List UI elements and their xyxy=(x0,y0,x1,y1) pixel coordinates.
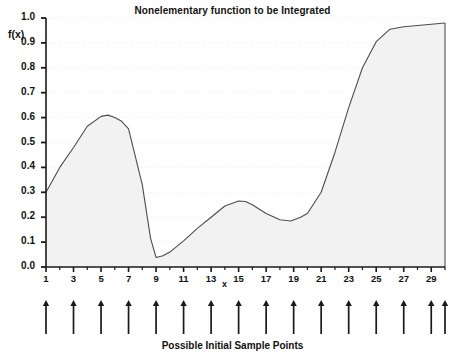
plot-canvas xyxy=(0,0,465,362)
y-tick-label: 0.0 xyxy=(3,260,35,271)
x-tick-label: 27 xyxy=(394,273,414,284)
sample-point-arrow xyxy=(290,300,296,334)
sample-point-arrow xyxy=(180,300,186,334)
x-tick-label: 1 xyxy=(36,273,56,284)
x-tick-label: 11 xyxy=(174,273,194,284)
y-tick-label: 0.2 xyxy=(3,210,35,221)
sample-point-arrow xyxy=(235,300,241,334)
y-tick-label: 0.5 xyxy=(3,136,35,147)
sample-point-arrow xyxy=(318,300,324,334)
arrow-head-icon xyxy=(373,300,379,306)
arrow-head-icon xyxy=(153,300,159,306)
arrow-head-icon xyxy=(263,300,269,306)
chart-figure: Nonelementary function to be Integrated … xyxy=(0,0,465,362)
function-area-fill xyxy=(46,23,445,267)
y-tick-label: 0.1 xyxy=(3,235,35,246)
sample-point-arrow xyxy=(401,300,407,334)
arrow-head-icon xyxy=(43,300,49,306)
x-tick-label: 7 xyxy=(119,273,139,284)
arrow-head-icon xyxy=(442,300,448,306)
sample-point-arrow xyxy=(153,300,159,334)
arrow-head-icon xyxy=(125,300,131,306)
x-tick-label: 23 xyxy=(339,273,359,284)
y-tick-label: 0.4 xyxy=(3,160,35,171)
x-tick-label: 9 xyxy=(146,273,166,284)
y-tick-label: 0.3 xyxy=(3,185,35,196)
area-fill-group xyxy=(46,23,445,267)
x-tick-label: 25 xyxy=(366,273,386,284)
y-tick-label: 0.7 xyxy=(3,86,35,97)
sample-point-arrow xyxy=(208,300,214,334)
sample-point-arrow xyxy=(442,300,448,334)
arrow-head-icon xyxy=(208,300,214,306)
y-tick-label: 0.8 xyxy=(3,61,35,72)
arrow-head-icon xyxy=(318,300,324,306)
arrow-head-icon xyxy=(290,300,296,306)
arrow-head-icon xyxy=(98,300,104,306)
arrow-head-icon xyxy=(401,300,407,306)
x-tick-label: 19 xyxy=(284,273,304,284)
x-tick-label: 17 xyxy=(256,273,276,284)
x-tick-label: 5 xyxy=(91,273,111,284)
sample-point-arrow xyxy=(70,300,76,334)
arrow-head-icon xyxy=(345,300,351,306)
sample-point-arrow xyxy=(428,300,434,334)
sample-point-arrow xyxy=(43,300,49,334)
sample-point-arrow xyxy=(345,300,351,334)
x-tick-label: 13 xyxy=(201,273,221,284)
arrow-head-icon xyxy=(428,300,434,306)
y-tick-label: 1.0 xyxy=(3,11,35,22)
x-tick-label: 29 xyxy=(421,273,441,284)
x-tick-label: 21 xyxy=(311,273,331,284)
sample-point-arrow xyxy=(98,300,104,334)
y-tick-label: 0.9 xyxy=(3,36,35,47)
arrow-head-icon xyxy=(235,300,241,306)
x-tick-label: 3 xyxy=(64,273,84,284)
x-tick-label: 15 xyxy=(229,273,249,284)
y-tick-label: 0.6 xyxy=(3,111,35,122)
sample-point-arrow xyxy=(263,300,269,334)
sample-point-arrow xyxy=(125,300,131,334)
arrow-head-icon xyxy=(70,300,76,306)
sample-point-arrows-group xyxy=(43,300,448,334)
sample-point-arrow xyxy=(373,300,379,334)
arrow-head-icon xyxy=(180,300,186,306)
